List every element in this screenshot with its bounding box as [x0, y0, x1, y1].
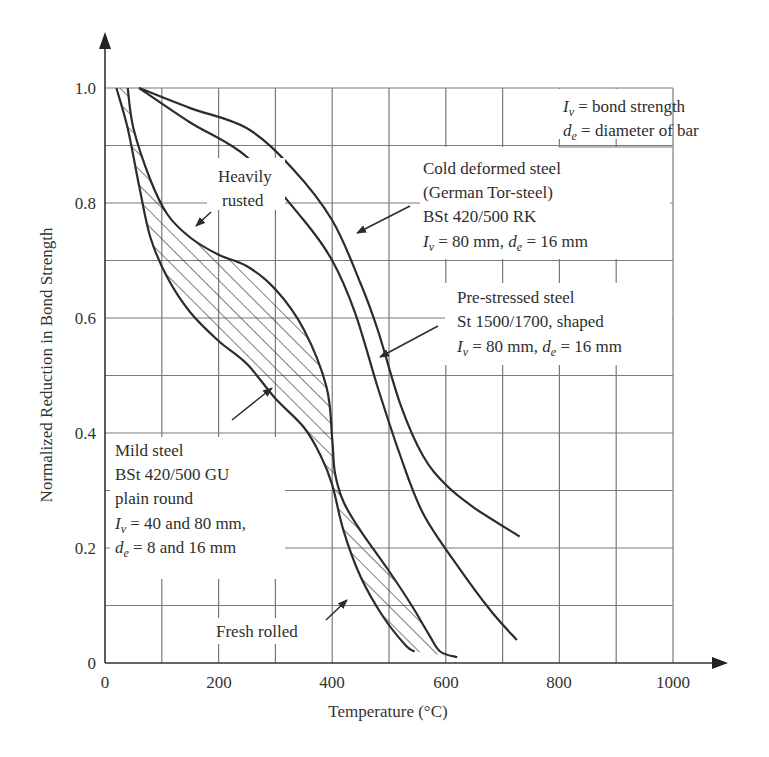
pre-l1: Pre-stressed steel: [457, 288, 575, 307]
mild-l1: Mild steel: [115, 441, 184, 460]
y-tick-0.4: 0.4: [75, 424, 97, 443]
fresh-label: Fresh rolled: [216, 622, 298, 641]
cold-l4: Iv = 80 mm, de = 16 mm: [422, 232, 588, 254]
bond-strength-chart: 0 200 400 600 800 1000 0 0.2 0.4 0.6 0.8…: [0, 0, 769, 757]
x-tick-600: 600: [433, 673, 459, 692]
x-axis-arrow-icon: [712, 657, 728, 669]
y-axis-title: Normalized Reduction in Bond Strength: [37, 227, 56, 502]
x-tick-800: 800: [546, 673, 572, 692]
mild-steel-arrow-icon: [232, 388, 272, 420]
cold-l3: BSt 420/500 RK: [423, 207, 537, 226]
fresh-rolled-arrow-icon: [326, 600, 347, 620]
x-tick-200: 200: [206, 673, 232, 692]
cold-deformed-arrow-icon: [357, 206, 410, 233]
mild-l3: plain round: [115, 489, 193, 508]
mild-l4: Iv = 40 and 80 mm,: [114, 514, 246, 536]
y-tick-0: 0: [88, 654, 97, 673]
pre-l2: St 1500/1700, shaped: [457, 312, 604, 331]
y-tick-1.0: 1.0: [75, 79, 96, 98]
legend-line-diameter: de = diameter of bar: [563, 121, 699, 143]
y-tick-0.2: 0.2: [75, 539, 96, 558]
heavily-label: Heavily: [218, 167, 272, 186]
x-tick-1000: 1000: [656, 673, 690, 692]
rusted-label: rusted: [222, 191, 264, 210]
heavily-rusted-arrow-icon: [196, 212, 211, 226]
legend-line-bond-strength: Iv = bond strength: [562, 97, 686, 119]
x-tick-labels: 0 200 400 600 800 1000: [101, 673, 690, 692]
y-axis-arrow-icon: [99, 32, 111, 49]
y-tick-0.6: 0.6: [75, 309, 96, 328]
x-axis-title: Temperature (°C): [328, 702, 447, 721]
cold-l2: (German Tor-steel): [423, 183, 553, 202]
cold-l1: Cold deformed steel: [423, 159, 561, 178]
x-tick-400: 400: [319, 673, 345, 692]
y-tick-labels: 0 0.2 0.4 0.6 0.8 1.0: [75, 79, 97, 673]
mild-l5: de = 8 and 16 mm: [115, 538, 236, 560]
mild-l2: BSt 420/500 GU: [115, 465, 229, 484]
pre-l3: Iv = 80 mm, de = 16 mm: [456, 337, 622, 359]
y-tick-0.8: 0.8: [75, 194, 96, 213]
x-tick-0: 0: [101, 673, 110, 692]
